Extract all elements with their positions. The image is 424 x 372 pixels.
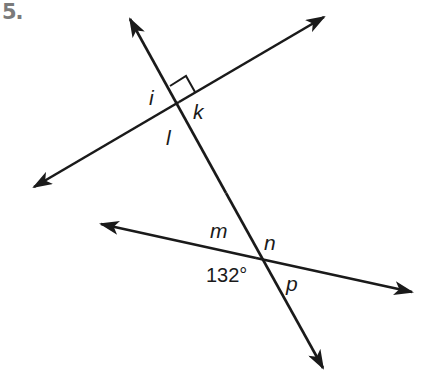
- upper-line: [34, 17, 324, 187]
- transversal-line: [130, 19, 323, 368]
- angle-label-n: n: [264, 232, 276, 253]
- angle-label-m: m: [210, 220, 228, 241]
- geometry-diagram: [0, 0, 424, 372]
- angle-label-p: p: [286, 273, 298, 294]
- angle-label-i: i: [149, 87, 154, 108]
- given-angle-value: 132°: [206, 265, 247, 285]
- lower-line: [101, 224, 412, 292]
- angle-label-l: l: [166, 127, 171, 148]
- angle-label-k: k: [193, 101, 204, 122]
- right-angle-marker: [170, 76, 195, 92]
